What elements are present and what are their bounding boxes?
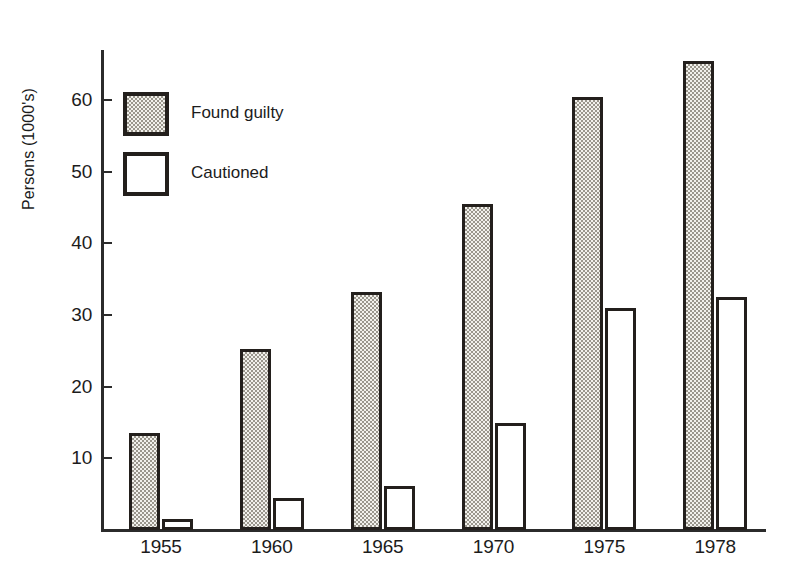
y-tick-label-50: 50 [48,162,92,181]
bar-1970-found-guilty [462,204,493,530]
y-tick-label-40: 40 [48,233,92,252]
x-label-1960: 1960 [217,536,327,558]
x-label-1975: 1975 [549,536,659,558]
legend-item-found-guilty: Found guilty [123,92,373,144]
y-tick-label-30: 30 [48,305,92,324]
bar-1955-found-guilty [129,433,160,530]
y-tick-label-20: 20 [48,377,92,396]
bar-chart: Persons (1000's) 102030405060 1955196019… [0,0,790,578]
bar-1960-found-guilty [240,349,271,530]
legend-label-found-guilty: Found guilty [191,102,284,124]
legend-swatch-found-guilty-icon [123,92,169,136]
bar-1978-found-guilty [683,61,714,530]
x-label-1970: 1970 [439,536,549,558]
chart-legend: Found guilty Cautioned [123,92,373,212]
bar-1965-cautioned [384,486,415,530]
bar-1970-cautioned [495,423,526,530]
legend-swatch-cautioned-icon [123,152,169,196]
bar-1975-found-guilty [572,97,603,530]
x-label-1965: 1965 [328,536,438,558]
x-label-1955: 1955 [106,536,216,558]
bar-1960-cautioned [273,498,304,530]
x-label-1978: 1978 [660,536,770,558]
y-axis-title: Persons (1000's) [20,44,38,254]
bar-1978-cautioned [716,297,747,530]
bar-1965-found-guilty [351,292,382,530]
legend-item-cautioned: Cautioned [123,152,373,204]
bar-1975-cautioned [605,308,636,530]
y-tick-label-10: 10 [48,448,92,467]
bar-1955-cautioned [162,519,193,530]
legend-label-cautioned: Cautioned [191,162,269,184]
y-tick-label-60: 60 [48,90,92,109]
